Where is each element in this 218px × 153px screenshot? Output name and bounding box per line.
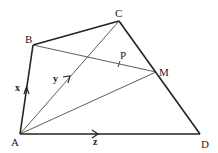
segment-AM xyxy=(20,72,156,134)
label-vector-z: z xyxy=(93,136,98,147)
quadrilateral-diagram: A B C D M P x y z xyxy=(0,0,218,153)
label-D: D xyxy=(201,138,209,150)
label-M: M xyxy=(159,66,169,78)
label-vector-x: x xyxy=(15,82,20,93)
label-B: B xyxy=(25,33,32,45)
label-P: P xyxy=(120,49,126,61)
arrow-y-icon xyxy=(63,76,70,83)
label-C: C xyxy=(115,7,122,19)
label-vector-y: y xyxy=(53,73,58,84)
edge-AB xyxy=(20,45,33,134)
label-A: A xyxy=(11,136,19,148)
edge-BC xyxy=(33,21,119,45)
